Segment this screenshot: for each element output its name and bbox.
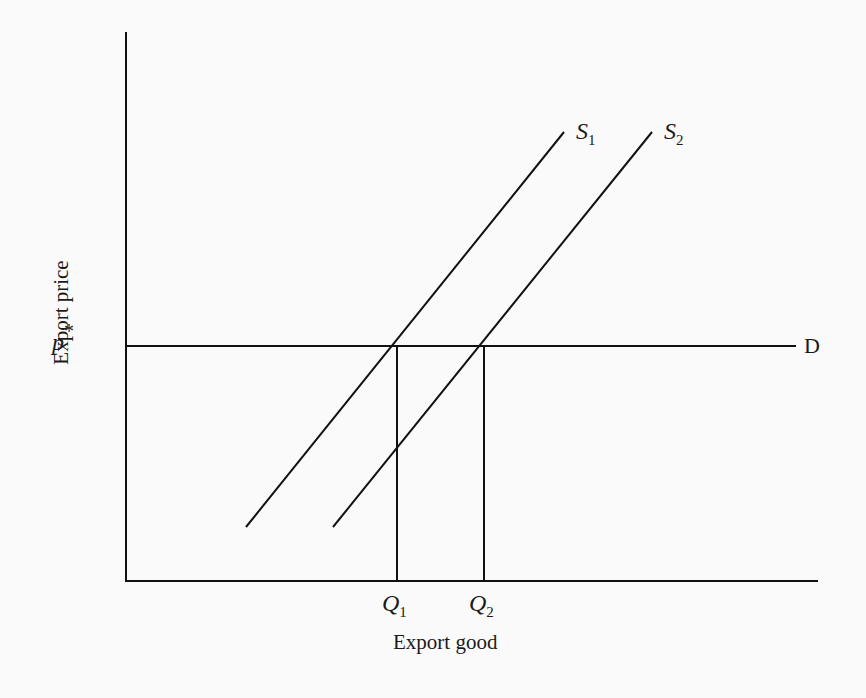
- supply-curve-s2: [333, 132, 652, 527]
- supply-curve-s1: [246, 132, 564, 527]
- y-axis-label: Export price: [49, 238, 74, 388]
- demand-label: D: [804, 333, 820, 359]
- q1-label: Q1: [382, 590, 407, 621]
- supply-demand-chart: [0, 0, 866, 698]
- s1-label: S1: [576, 118, 596, 149]
- p-star-label: p*: [52, 329, 74, 356]
- x-axis-label: Export good: [393, 630, 497, 655]
- s2-label: S2: [664, 118, 684, 149]
- q2-label: Q2: [469, 590, 494, 621]
